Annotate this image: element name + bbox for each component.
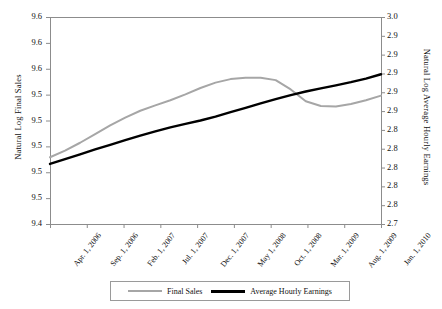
y-tick-label-right: 3.0 xyxy=(387,11,417,21)
y-tick-label-left: 9.5 xyxy=(12,166,42,176)
y-tick-label-left: 9.4 xyxy=(12,218,42,228)
legend-label-final-sales: Final Sales xyxy=(167,287,202,296)
y-tick-label-left: 9.6 xyxy=(12,11,42,21)
y-tick-label-left: 9.6 xyxy=(12,63,42,73)
y-tick-label-left: 9.5 xyxy=(12,140,42,150)
y-tick-label-right: 2.9 xyxy=(387,86,417,96)
y-tick-label-right: 2.9 xyxy=(387,67,417,77)
y-tick-label-right: 2.8 xyxy=(387,124,417,134)
y-tick-label-right: 2.9 xyxy=(387,105,417,115)
y-tick-label-left: 9.5 xyxy=(12,115,42,125)
legend-item-average-hourly-earnings: Average Hourly Earnings xyxy=(211,287,332,296)
chart-figure: Natural Log Final Sales Natural Log Aver… xyxy=(0,0,442,309)
y-tick-label-right: 2.8 xyxy=(387,162,417,172)
y-tick-label-right: 2.8 xyxy=(387,143,417,153)
legend-swatch-average-hourly-earnings xyxy=(211,290,245,293)
chart-legend: Final Sales Average Hourly Earnings xyxy=(110,281,350,301)
y-tick-label-right: 2.8 xyxy=(387,199,417,209)
y-tick-label-right: 2.9 xyxy=(387,49,417,59)
series-line-average-hourly-earnings xyxy=(50,74,381,164)
y-tick-label-right: 2.8 xyxy=(387,180,417,190)
y-tick-label-left: 9.5 xyxy=(12,192,42,202)
plot-frame xyxy=(51,18,382,225)
legend-label-average-hourly-earnings: Average Hourly Earnings xyxy=(250,287,332,296)
y-tick-label-left: 9.6 xyxy=(12,37,42,47)
y-tick-label-right: 2.9 xyxy=(387,30,417,40)
y-tick-label-left: 9.5 xyxy=(12,89,42,99)
legend-swatch-final-sales xyxy=(128,290,162,292)
legend-item-final-sales: Final Sales xyxy=(128,287,202,296)
y-axis-right-title: Natural Log Average Hourly Earnings xyxy=(422,42,432,192)
y-tick-label-right: 2.7 xyxy=(387,218,417,228)
